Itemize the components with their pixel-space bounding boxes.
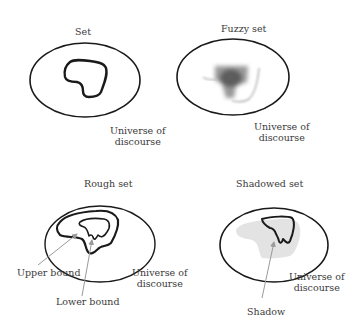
universe-label-rough-set: Universe of discourse — [132, 267, 187, 289]
panel-title-fuzzy-set: Fuzzy set — [221, 23, 266, 34]
universe-label-fuzzy-set: Universe of discourse — [254, 121, 309, 143]
universe-ellipse — [30, 43, 140, 117]
shadow-label: Shadow — [247, 306, 285, 317]
universe-label-set: Universe of discourse — [110, 125, 165, 147]
lower-bound-shape — [79, 218, 109, 239]
panel-title-shadowed-set: Shadowed set — [236, 178, 303, 189]
crisp-set-shape — [65, 60, 107, 97]
panel-fuzzy-set — [177, 39, 289, 115]
panel-title-rough-set: Rough set — [84, 178, 133, 189]
panel-set — [30, 43, 140, 117]
lower-bound-label: Lower bound — [56, 296, 119, 307]
panel-title-set: Set — [75, 26, 91, 37]
set-types-diagram: Set Universe of discourse Fuzzy set Univ… — [0, 0, 356, 330]
upper-bound-label: Upper bound — [17, 267, 80, 278]
universe-label-shadowed-set: Universe of discourse — [289, 271, 344, 293]
upper-bound-arrow — [38, 234, 77, 265]
